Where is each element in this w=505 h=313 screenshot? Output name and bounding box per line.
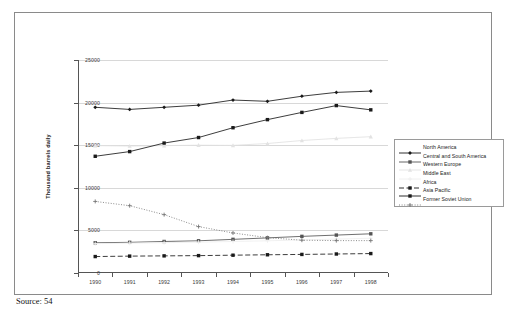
data-point	[266, 253, 269, 256]
legend-item: Asia Pacific	[397, 186, 500, 195]
data-point	[335, 104, 338, 107]
data-point	[197, 136, 200, 139]
chart-figure: Thousand barrels daily 05000100001500020…	[0, 0, 505, 313]
data-point	[162, 141, 165, 144]
x-axis-tick-label: 1997	[330, 279, 342, 285]
data-point	[162, 254, 165, 257]
legend-label: Middle East	[423, 170, 451, 176]
data-point	[300, 235, 303, 238]
legend-key-icon	[397, 169, 423, 177]
legend-key-icon	[397, 160, 423, 168]
data-point	[369, 252, 372, 255]
legend-item: North America	[397, 143, 500, 152]
data-point	[128, 204, 132, 208]
data-point	[335, 233, 338, 236]
data-point	[128, 150, 131, 153]
data-point	[300, 253, 303, 256]
x-axis-tick-label: 1990	[89, 279, 101, 285]
figure-border: Thousand barrels daily 05000100001500020…	[14, 12, 492, 295]
x-axis-tick	[216, 273, 217, 277]
data-point	[162, 213, 166, 217]
legend-label: Central and South America	[423, 153, 486, 159]
source-note: Source: 54	[16, 296, 53, 306]
data-point	[94, 155, 97, 158]
data-point	[369, 89, 373, 93]
y-axis-title: Thousand barrels daily	[43, 60, 53, 273]
data-point	[93, 199, 97, 203]
legend-label: North America	[423, 144, 457, 150]
data-point	[300, 238, 304, 242]
legend-key-icon	[397, 178, 423, 186]
data-point	[231, 126, 234, 129]
legend-item: Middle East	[397, 169, 500, 178]
series-line	[95, 106, 371, 157]
x-axis-tick	[112, 273, 113, 277]
data-point	[300, 94, 304, 98]
legend-key-icon	[397, 195, 423, 203]
legend-label: Former Soviet Union	[423, 196, 472, 202]
legend-label: Western Europe	[423, 161, 461, 167]
x-axis-tick-label: 1992	[158, 279, 170, 285]
series-north-america	[93, 89, 372, 111]
series-western-europe	[93, 135, 373, 148]
series-layer	[78, 60, 388, 273]
x-axis-tick	[354, 273, 355, 277]
x-axis-tick	[285, 273, 286, 277]
data-point	[369, 232, 372, 235]
series-asia-pacific	[94, 104, 373, 158]
legend-label: Asia Pacific	[423, 187, 450, 193]
x-axis-tick-label: 1995	[261, 279, 273, 285]
legend-label: Africa	[423, 179, 437, 185]
data-point	[231, 231, 235, 235]
x-axis-tick	[78, 273, 79, 277]
data-point	[266, 118, 269, 121]
x-axis-tick-label: 1993	[193, 279, 205, 285]
legend-key-icon	[397, 143, 423, 151]
data-point	[94, 255, 97, 258]
data-point	[231, 253, 234, 256]
legend-item: Central and South America	[397, 152, 500, 161]
x-axis-tick	[388, 273, 389, 277]
data-point	[197, 103, 201, 107]
data-point	[162, 105, 166, 109]
x-axis-tick	[181, 273, 182, 277]
data-point	[197, 225, 201, 229]
x-axis-tick	[319, 273, 320, 277]
data-point	[197, 254, 200, 257]
series-former-soviet-union	[93, 199, 373, 242]
x-axis-tick-label: 1991	[124, 279, 136, 285]
data-point	[231, 98, 235, 102]
legend-key-icon	[397, 186, 423, 194]
series-africa	[94, 252, 373, 258]
data-point	[266, 99, 270, 103]
data-point	[128, 254, 131, 257]
data-point	[128, 108, 132, 112]
plot-area: 0500010000150002000025000 19901991199219…	[78, 60, 388, 273]
data-point	[300, 111, 303, 114]
data-point	[335, 252, 338, 255]
x-axis-tick-label: 1998	[365, 279, 377, 285]
data-point	[369, 239, 373, 243]
legend-key-icon	[397, 152, 423, 160]
legend-item: Former Soviet Union	[397, 195, 500, 204]
x-axis-tick-label: 1996	[296, 279, 308, 285]
chart-legend: North AmericaCentral and South AmericaWe…	[394, 139, 504, 207]
x-axis-tick	[250, 273, 251, 277]
legend-item: Africa	[397, 177, 500, 186]
x-axis-tick	[147, 273, 148, 277]
legend-item: Western Europe	[397, 160, 500, 169]
data-point	[369, 108, 372, 111]
data-point	[334, 90, 338, 94]
x-axis-tick-label: 1994	[227, 279, 239, 285]
data-point	[93, 105, 97, 109]
